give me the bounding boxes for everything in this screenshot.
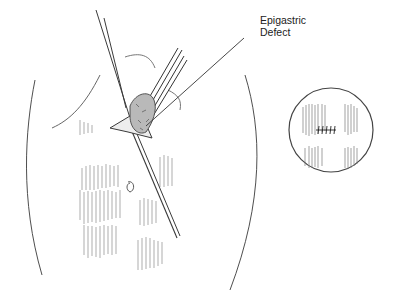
hernia-sac bbox=[130, 94, 155, 133]
rectus-muscle-hatching bbox=[80, 120, 172, 270]
umbilicus-icon bbox=[127, 182, 134, 192]
inset-circle bbox=[289, 88, 373, 172]
callout-leader-line bbox=[146, 38, 244, 126]
surgical-illustration bbox=[0, 0, 416, 294]
callout-label: Epigastric Defect bbox=[260, 14, 306, 38]
callout-label-line1: Epigastric bbox=[260, 14, 306, 26]
callout-label-line2: Defect bbox=[260, 26, 306, 38]
